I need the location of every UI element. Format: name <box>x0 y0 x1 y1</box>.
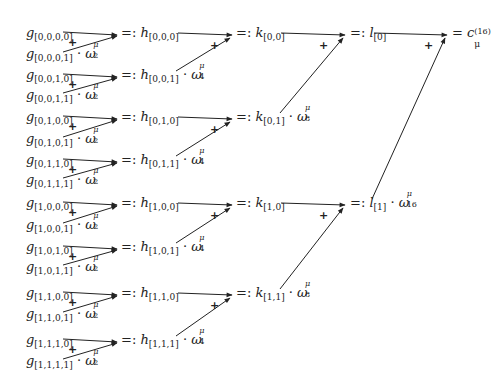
twiddle-factor: ωμ2 <box>85 88 96 101</box>
k-to-l-arrow <box>281 33 345 35</box>
k-twiddle-to-l-arrow <box>280 38 343 113</box>
g-node: g[0,0,0,1] · ωμ2 <box>26 47 96 63</box>
h-node: =: h[0,0,0] <box>121 26 179 42</box>
dot-operator: · <box>77 87 81 102</box>
index-subscript: [0,1,0,1] <box>34 138 73 148</box>
define-symbol: =: <box>236 109 251 124</box>
twiddle-factor: ωμ4 <box>191 333 202 346</box>
index-subscript: [1,0,0,1] <box>34 224 73 234</box>
h-node: =: h[1,0,1] · ωμ4 <box>121 240 202 256</box>
g-node: g[0,0,1,0] <box>26 68 73 84</box>
twiddle-factor: ωμ2 <box>85 132 96 145</box>
define-symbol: =: <box>236 25 251 40</box>
h-to-k-arrow <box>178 33 232 35</box>
g-node: g[1,1,1,0] <box>26 333 73 349</box>
dot-operator: · <box>183 332 187 347</box>
plus-sign: + <box>210 210 219 221</box>
plus-sign: + <box>319 40 328 51</box>
g-node: g[1,1,0,1] · ωμ2 <box>26 307 96 323</box>
define-symbol: =: <box>121 195 136 210</box>
index-subscript: [1,1,0] <box>149 292 179 302</box>
variable-symbol: h <box>140 195 148 210</box>
dot-operator: · <box>289 285 293 300</box>
variable-symbol: h <box>140 332 148 347</box>
twiddle-factor: ωμ16 <box>399 196 410 209</box>
dot-operator: · <box>183 152 187 167</box>
index-subscript: [1,1,0,1] <box>34 313 73 323</box>
define-symbol: =: <box>121 109 136 124</box>
index-subscript: [0,0,0,1] <box>34 53 73 63</box>
k-twiddle-to-l-arrow <box>280 208 343 289</box>
twiddle-factor: ωμ8 <box>297 286 308 299</box>
index-subscript: [0,1,1] <box>149 159 179 169</box>
define-symbol: =: <box>236 195 251 210</box>
result-superscript: (16) <box>474 28 490 36</box>
plus-sign: + <box>68 121 77 132</box>
plus-sign: + <box>210 300 219 311</box>
twiddle-factor: ωμ2 <box>85 218 96 231</box>
twiddle-factor: ωμ2 <box>85 307 96 320</box>
plus-sign: + <box>68 79 77 90</box>
twiddle-factor: ωμ2 <box>85 354 96 367</box>
index-subscript: [0,0,0] <box>149 32 179 42</box>
k-node: =: k[0,1] · ωμ8 <box>236 110 308 126</box>
h-node: =: h[1,1,1] · ωμ4 <box>121 333 202 349</box>
g-node: g[1,0,1,1] · ωμ2 <box>26 260 96 276</box>
dot-operator: · <box>77 259 81 274</box>
equals-symbol: = <box>452 25 463 40</box>
index-subscript: [0,0] <box>263 32 284 42</box>
k-to-l-arrow <box>281 203 345 205</box>
h-node: =: h[1,0,0] <box>121 196 179 212</box>
define-symbol: =: <box>121 25 136 40</box>
variable-symbol: h <box>140 109 148 124</box>
index-subscript: [1] <box>374 202 387 212</box>
index-subscript: [1,1] <box>263 292 284 302</box>
twiddle-factor: ωμ2 <box>85 47 96 60</box>
fft-butterfly-diagram: g[0,0,0,0]g[0,0,0,1] · ωμ2g[0,0,1,0]g[0,… <box>0 0 496 391</box>
plus-sign: + <box>68 164 77 175</box>
dot-operator: · <box>77 217 81 232</box>
g-node: g[1,0,0,0] <box>26 196 73 212</box>
define-symbol: =: <box>121 239 136 254</box>
result-node: = cμ(16) <box>452 26 492 39</box>
plus-sign: + <box>68 207 77 218</box>
g-node: g[0,1,1,1] · ωμ2 <box>26 173 96 189</box>
l-node: =: l[0] <box>350 26 386 42</box>
plus-sign: + <box>424 40 433 51</box>
define-symbol: =: <box>350 25 365 40</box>
g-node: g[0,1,1,0] <box>26 153 73 169</box>
define-symbol: =: <box>121 67 136 82</box>
k-node: =: k[0,0] <box>236 26 285 42</box>
variable-symbol: h <box>140 152 148 167</box>
variable-symbol: h <box>140 239 148 254</box>
g-node: g[0,1,0,1] · ωμ2 <box>26 132 96 148</box>
dot-operator: · <box>289 109 293 124</box>
twiddle-factor: ωμ4 <box>191 68 202 81</box>
index-subscript: [0,1] <box>263 116 284 126</box>
g-node: g[1,1,0,0] <box>26 286 73 302</box>
twiddle-factor: ωμ4 <box>191 240 202 253</box>
g-node: g[0,0,1,1] · ωμ2 <box>26 88 96 104</box>
dot-operator: · <box>183 239 187 254</box>
dot-operator: · <box>77 46 81 61</box>
index-subscript: [0,1,0] <box>149 116 179 126</box>
dot-operator: · <box>77 306 81 321</box>
result-subscript: μ <box>474 40 480 49</box>
define-symbol: =: <box>121 332 136 347</box>
variable-symbol: h <box>140 25 148 40</box>
h-node: =: h[0,1,0] <box>121 110 179 126</box>
dot-operator: · <box>183 67 187 82</box>
plus-sign: + <box>210 124 219 135</box>
plus-sign: + <box>68 297 77 308</box>
g-node: g[1,0,0,1] · ωμ2 <box>26 218 96 234</box>
plus-sign: + <box>68 344 77 355</box>
plus-sign: + <box>210 40 219 51</box>
define-symbol: =: <box>236 285 251 300</box>
dot-operator: · <box>77 131 81 146</box>
h-node: =: h[0,1,1] · ωμ4 <box>121 153 202 169</box>
h-node: =: h[0,0,1] · ωμ4 <box>121 68 202 84</box>
define-symbol: =: <box>121 152 136 167</box>
plus-sign: + <box>319 210 328 221</box>
h-to-k-arrow <box>178 293 232 295</box>
l-twiddle-to-c-arrow <box>372 38 445 199</box>
